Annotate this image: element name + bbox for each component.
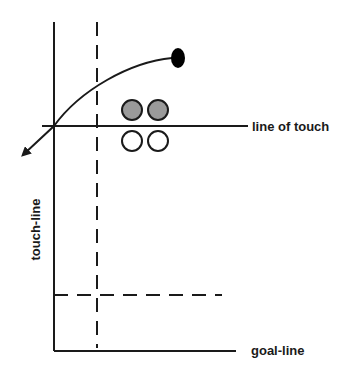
open-player-icon [148, 131, 168, 151]
line-of-touch-label: line of touch [252, 119, 329, 134]
ball-icon [171, 48, 185, 68]
shaded-player-icon [122, 100, 142, 120]
open-player-icon [122, 131, 142, 151]
touch-line-label: touch-line [28, 192, 43, 268]
goal-line-label: goal-line [251, 343, 304, 358]
field-diagram [0, 0, 359, 375]
shaded-player-icon [148, 100, 168, 120]
